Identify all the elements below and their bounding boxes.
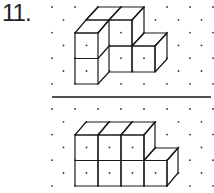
bottom-figure	[75, 122, 178, 186]
top-figure	[75, 7, 167, 84]
isometric-figures	[0, 0, 214, 193]
